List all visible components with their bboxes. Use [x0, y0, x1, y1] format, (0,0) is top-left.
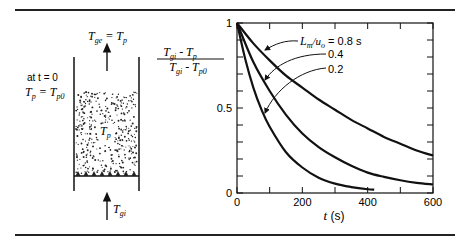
particle: [80, 100, 81, 101]
particle: [118, 137, 120, 139]
particle: [88, 139, 90, 141]
particle: [105, 114, 106, 115]
particle: [123, 129, 124, 130]
particle: [97, 93, 98, 94]
particle: [104, 150, 106, 152]
particle: [111, 97, 112, 98]
particle: [79, 129, 80, 130]
particle: [126, 106, 127, 107]
particle: [116, 98, 117, 99]
particle: [81, 132, 82, 133]
particle: [97, 170, 98, 171]
particle: [76, 142, 77, 143]
distributor-cap: [132, 171, 137, 176]
particle: [80, 167, 81, 168]
particle: [123, 97, 124, 98]
particle: [121, 102, 122, 103]
particle: [130, 120, 131, 121]
particle: [94, 97, 95, 98]
inlet-label: Tgi: [113, 202, 126, 218]
particle: [83, 92, 85, 94]
particle: [87, 117, 88, 118]
particle: [107, 171, 108, 172]
particle: [89, 123, 90, 124]
particle: [92, 168, 94, 170]
particle: [132, 151, 134, 153]
particle: [121, 113, 123, 115]
particle: [128, 138, 129, 139]
particle: [85, 99, 87, 101]
particle: [87, 170, 88, 171]
particle: [91, 106, 93, 108]
particle: [77, 109, 78, 110]
particle: [125, 157, 126, 158]
particle: [84, 171, 85, 172]
particle: [108, 112, 109, 113]
particle: [125, 146, 126, 147]
particle: [109, 119, 110, 120]
particle: [81, 134, 82, 135]
particle: [134, 165, 135, 166]
particle: [99, 147, 101, 149]
particle: [99, 106, 101, 108]
particle: [93, 142, 95, 144]
particle: [125, 129, 127, 131]
particle: [79, 164, 80, 165]
particle: [96, 110, 98, 112]
particle: [84, 122, 86, 124]
particle: [133, 104, 134, 105]
particle: [83, 156, 85, 158]
particle: [91, 114, 92, 115]
particle: [122, 132, 123, 133]
particle: [131, 101, 133, 103]
particle: [118, 93, 119, 94]
particle: [117, 143, 119, 145]
particle: [133, 99, 134, 100]
particle: [116, 114, 117, 115]
particle: [119, 139, 121, 141]
particle: [123, 167, 124, 168]
annotation-arrow-0.2: [265, 68, 326, 113]
particle: [128, 128, 129, 129]
particle: [132, 136, 134, 138]
particle: [79, 121, 80, 122]
particle: [87, 149, 89, 151]
particle: [87, 101, 88, 102]
y-tick-label: 1: [226, 17, 232, 29]
particle: [84, 112, 86, 114]
distributor-cap: [84, 171, 89, 176]
particle: [82, 125, 83, 126]
particle: [94, 126, 96, 128]
particle: [95, 101, 96, 102]
particle: [122, 161, 124, 163]
particle: [79, 101, 81, 103]
particle: [90, 150, 92, 152]
particle: [89, 120, 90, 121]
particle: [77, 119, 78, 120]
particle: [121, 145, 123, 147]
particle: [119, 163, 120, 164]
particle: [102, 160, 103, 161]
schematic: Tge = Tp at t = 0 Tp = Tp0 Tp Tgi: [25, 29, 139, 220]
particle: [95, 121, 96, 122]
particle: [129, 157, 131, 159]
particle: [116, 150, 117, 151]
particle: [92, 170, 93, 171]
particle: [121, 134, 123, 136]
particle: [122, 130, 124, 132]
particle: [133, 140, 134, 141]
particle: [116, 132, 118, 134]
particle: [80, 103, 81, 104]
particle: [104, 145, 106, 147]
bed-temperature-label: Tp: [100, 124, 111, 140]
particle: [90, 101, 91, 102]
particle: [112, 103, 114, 105]
particle: [115, 137, 116, 138]
particle: [103, 170, 105, 172]
particle: [134, 134, 135, 135]
particle: [98, 104, 99, 105]
particle: [77, 127, 79, 129]
particle: [89, 166, 90, 167]
particle: [96, 171, 98, 173]
particle: [91, 142, 92, 143]
